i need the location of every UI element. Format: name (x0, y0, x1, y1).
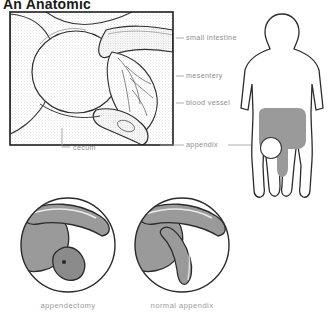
label-small-intestine: small intestine (186, 33, 237, 42)
label-mesentery: mesentery (186, 71, 223, 80)
inset-appendectomy (6, 198, 115, 292)
figure-artwork (0, 0, 332, 325)
caption-normal-appendix: normal appendix (132, 301, 232, 310)
inset-normal-appendix (122, 198, 229, 292)
label-blood-vessel: blood vessel (186, 98, 230, 107)
label-cecum: cecum (73, 143, 96, 152)
human-body-figure (241, 14, 323, 197)
label-appendix: appendix (186, 140, 218, 149)
appendix-location-circle (261, 138, 282, 159)
anatomy-figure: An Anatomic (0, 0, 332, 325)
caption-appendectomy: appendectomy (18, 301, 118, 310)
main-illustration-panel (10, 12, 173, 145)
